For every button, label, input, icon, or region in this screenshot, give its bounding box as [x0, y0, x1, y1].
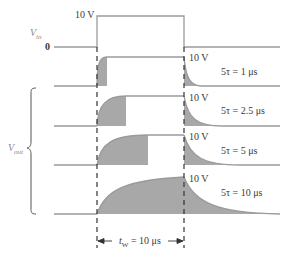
vout-brace	[27, 88, 36, 214]
vout-label: Vout	[8, 143, 23, 156]
trace-3-tau-label: 5τ = 5 μs	[221, 146, 257, 156]
rc-pulse-response-diagram	[0, 0, 292, 258]
pulse-width-value: = 10 μs	[131, 235, 161, 246]
trace-4-amplitude-label: 10 V	[189, 174, 209, 184]
vout-label-sub: out	[14, 148, 23, 156]
trace-1-amplitude-label: 10 V	[189, 53, 209, 63]
vin-label-sub: in	[36, 33, 41, 41]
input-pulse-waveform	[54, 16, 280, 47]
trace-1-tau-label: 5τ = 1 μs	[221, 67, 257, 77]
input-high-label: 10 V	[75, 10, 95, 20]
vin-label: Vin	[30, 28, 42, 41]
pulse-width-sub: W	[122, 241, 129, 249]
trace-2-amplitude-label: 10 V	[189, 93, 209, 103]
trace-2-tau-label: 5τ = 2.5 μs	[221, 106, 265, 116]
pulse-width-label: tW = 10 μs	[119, 236, 161, 249]
trace-3-amplitude-label: 10 V	[189, 132, 209, 142]
input-zero-label: 0	[45, 42, 50, 52]
trace-4-tau-label: 5τ = 10 μs	[221, 188, 262, 198]
